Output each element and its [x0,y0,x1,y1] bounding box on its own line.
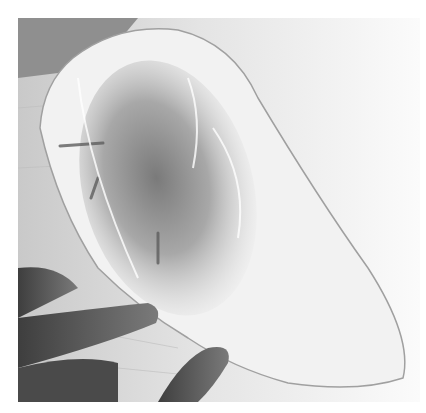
photograph [18,18,420,402]
hand-shadow [18,359,118,402]
photo-illustration [18,18,420,402]
